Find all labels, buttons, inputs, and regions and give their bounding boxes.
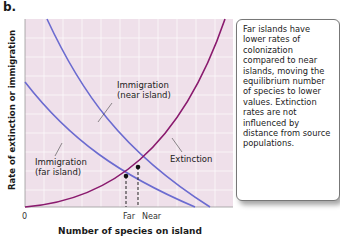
x-tick-zero: 0	[22, 212, 27, 221]
label-line: Immigration	[35, 157, 87, 167]
label-line: Immigration	[117, 80, 171, 90]
plot-background	[25, 19, 233, 207]
label-extinction: Extinction	[170, 154, 212, 164]
label-immigration-far: Immigration (far island)	[35, 157, 87, 177]
far-equilibrium-point	[124, 174, 129, 179]
x-tick-near: Near	[142, 212, 161, 221]
label-line: (far island)	[35, 167, 87, 177]
y-axis-label: Rate of extinction or immigration	[7, 20, 17, 200]
callout-box: Far islands have lower rates of coloniza…	[236, 19, 340, 201]
label-line: (near island)	[117, 90, 171, 100]
label-immigration-near: Immigration (near island)	[117, 80, 171, 100]
near-equilibrium-point	[136, 165, 141, 170]
x-tick-far: Far	[123, 212, 135, 221]
x-axis-label: Number of species on island	[40, 226, 220, 236]
